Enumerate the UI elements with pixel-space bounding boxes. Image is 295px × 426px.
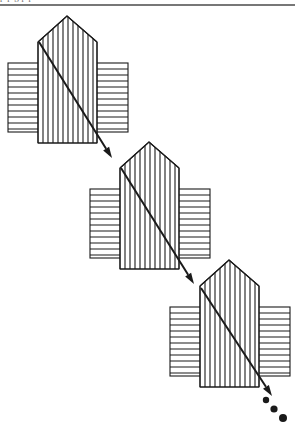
glyph-2-house (120, 142, 179, 269)
glyph-1-house (38, 16, 97, 143)
glyph-3-house (200, 260, 259, 387)
trailing-dot-1 (263, 397, 269, 403)
glyph-3 (170, 260, 290, 387)
trailing-dots-layer (263, 397, 287, 422)
arrow-segment-3-head (263, 385, 272, 396)
glyph-1 (8, 16, 128, 143)
arrow-segment-2-head (185, 273, 194, 284)
clipped-caption-band: p p g p p (0, 0, 295, 3)
glyph-layer (8, 16, 290, 387)
clipped-caption-text: p p g p p (0, 0, 295, 2)
diagram-svg (0, 0, 295, 426)
arrow-segment-1-head (103, 147, 112, 158)
glyph-2 (90, 142, 210, 269)
trailing-dot-3 (279, 414, 287, 422)
figure-canvas: p p g p p (0, 0, 295, 426)
trailing-dot-2 (270, 405, 277, 412)
